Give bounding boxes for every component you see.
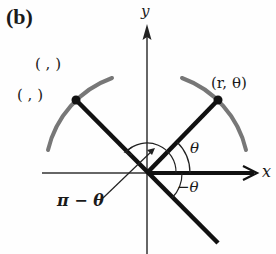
point-right: [214, 96, 223, 105]
arc-left: [48, 78, 112, 150]
angle-label-pi-minus-theta: π − θ: [57, 193, 104, 209]
polar-symmetry-diagram: (b) y x (r, θ) ( , ) ( , ) θ −θ π − θ: [0, 0, 276, 254]
point-left: [72, 96, 81, 105]
point-label-left-lower: ( , ): [17, 88, 43, 103]
angle-label-neg-theta: −θ: [177, 180, 199, 195]
ray-theta: [147, 100, 218, 173]
point-label-r-theta: (r, θ): [211, 76, 247, 91]
angle-label-theta: θ: [190, 141, 199, 156]
y-axis-label: y: [141, 4, 149, 19]
panel-label: (b): [6, 6, 33, 28]
diagram-graphics: [0, 0, 276, 254]
x-axis-label: x: [262, 164, 271, 180]
arc-theta: [177, 142, 190, 173]
point-label-left-upper: ( , ): [35, 57, 61, 72]
y-axis: [143, 24, 152, 254]
pi-minus-theta-leader: [103, 150, 153, 198]
